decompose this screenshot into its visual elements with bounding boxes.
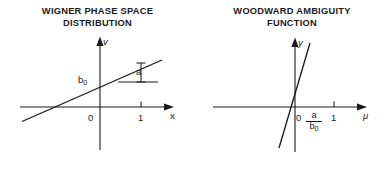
b0-intercept-label: b0 [78,74,87,85]
x-tick-label-zero: 0 [88,112,93,123]
x-tick-label-one: 1 [138,112,143,123]
b0-subscript: 0 [83,78,87,87]
fraction-denominator-base: b [309,121,314,131]
figure-woodward-ambiguity: WOODWARD AMBIGUITY FUNCTION y μ 0 1 a b0 [195,0,389,187]
fraction-denominator: b0 [306,121,322,132]
fraction-numerator: a [306,111,322,121]
woodward-plot-canvas [195,0,389,187]
v-axis-label: v [103,36,108,47]
v-axis [96,37,103,151]
mu-tick-label-one: 1 [331,112,336,123]
x-axis-label: x [170,110,175,121]
wigner-plot-canvas [0,0,195,187]
fraction-denominator-subscript: 0 [315,124,319,133]
figure-wigner-phase-space: WIGNER PHASE SPACE DISTRIBUTION v x b0 a… [0,0,195,187]
y-axis-label: y [298,37,303,48]
x-axis [20,103,174,110]
mu-tick-label-zero: 0 [296,112,301,123]
mu-axis-label: μ [363,110,368,121]
a-over-b0-fraction: a b0 [306,111,322,131]
slope-a-label: a [136,66,141,77]
